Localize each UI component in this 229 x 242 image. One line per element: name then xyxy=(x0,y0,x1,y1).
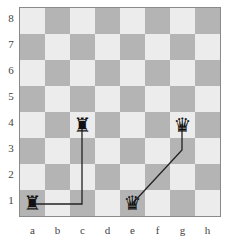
black-rook-icon: ♜ xyxy=(20,190,45,216)
black-rook-icon: ♜ xyxy=(70,112,95,138)
black-queen-icon: ♛ xyxy=(170,112,195,138)
black-queen-icon: ♛ xyxy=(120,190,145,216)
